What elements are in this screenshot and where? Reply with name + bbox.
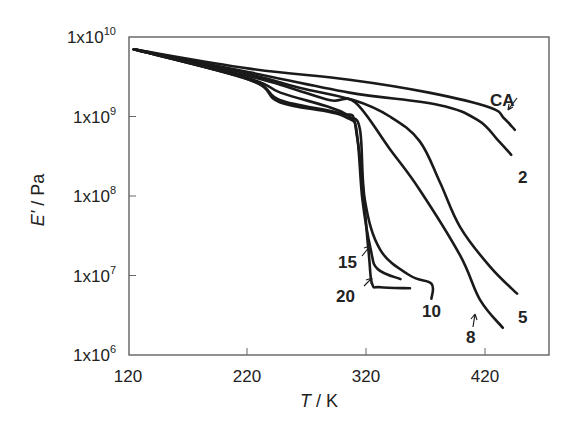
curve-20	[134, 49, 410, 288]
x-tick-label: 420	[471, 367, 499, 386]
x-axis: 120220320420	[114, 348, 499, 386]
arrow-20	[364, 278, 372, 286]
arrow-8	[471, 314, 477, 327]
y-tick-label: 1x1010	[67, 25, 116, 47]
label-5: 5	[518, 308, 527, 327]
label-10: 10	[422, 302, 441, 321]
label-20: 20	[336, 287, 355, 306]
y-axis-title: E' / Pa	[28, 173, 48, 226]
storage-modulus-chart: 1x10101x1091x1081x1071x106 120220320420 …	[0, 0, 577, 438]
y-tick-label: 1x109	[73, 105, 116, 127]
x-tick-label: 120	[114, 367, 142, 386]
x-axis-title: T / K	[300, 391, 338, 411]
y-tick-label: 1x108	[73, 184, 116, 206]
label-8: 8	[466, 328, 475, 347]
y-tick-label: 1x106	[73, 343, 116, 365]
x-tick-label: 220	[233, 367, 261, 386]
y-axis: 1x10101x1091x1081x1071x106	[67, 25, 136, 365]
x-tick-label: 320	[352, 367, 380, 386]
y-tick-label: 1x107	[73, 264, 116, 286]
curves	[134, 49, 517, 328]
label-15: 15	[338, 253, 357, 272]
curve-2	[134, 49, 511, 155]
label-2: 2	[518, 168, 527, 187]
